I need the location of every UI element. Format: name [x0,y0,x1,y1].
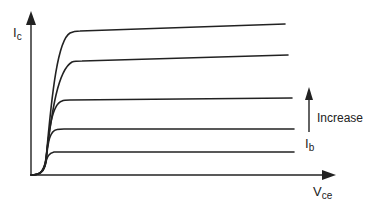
ib-label: Ib [305,136,315,153]
bjt-characteristics-diagram: Ic Increase Ib Vce [0,0,378,206]
increase-label: Increase [317,111,363,125]
curve-ib4 [31,55,288,175]
curve-ib1 [31,152,294,175]
y-axis-arrowhead-icon [26,11,36,25]
x-axis-arrowhead-icon [322,170,336,180]
curve-ib3 [31,98,292,175]
x-axis-label: Vce [313,184,333,201]
increase-arrow-icon [305,87,313,100]
y-axis-label: Ic [13,25,22,42]
